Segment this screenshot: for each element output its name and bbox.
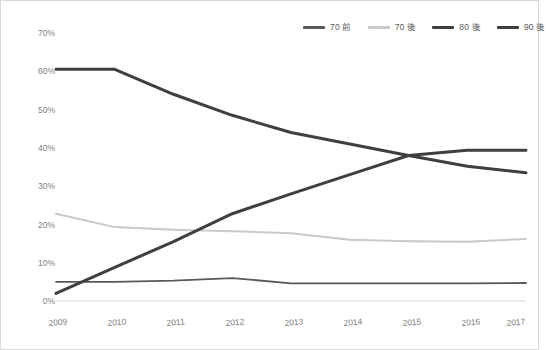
x-tick-label: 2013 xyxy=(284,316,304,328)
series-line xyxy=(56,214,526,242)
y-tick-label: 40% xyxy=(15,143,55,153)
y-tick-label: 20% xyxy=(15,220,55,230)
series-line xyxy=(56,69,526,172)
x-tick-label: 2011 xyxy=(166,316,185,328)
x-tick-label: 2017 xyxy=(506,316,526,328)
y-tick-label: 30% xyxy=(15,181,55,191)
series-line xyxy=(56,150,526,293)
series-line xyxy=(56,278,526,283)
y-tick-label: 50% xyxy=(15,105,55,115)
y-tick-label: 10% xyxy=(15,258,55,268)
y-tick-label: 70% xyxy=(15,28,55,38)
y-tick-label: 60% xyxy=(15,66,55,76)
x-tick-label: 2010 xyxy=(107,316,127,328)
x-tick-label: 2009 xyxy=(48,316,68,328)
plot-area xyxy=(1,1,540,350)
x-tick-label: 2012 xyxy=(225,316,245,328)
x-tick-label: 2016 xyxy=(461,316,481,328)
x-tick-label: 2014 xyxy=(343,316,363,328)
y-tick-label: 0% xyxy=(15,296,55,306)
x-tick-label: 2015 xyxy=(402,316,422,328)
data-series-group xyxy=(56,69,526,293)
